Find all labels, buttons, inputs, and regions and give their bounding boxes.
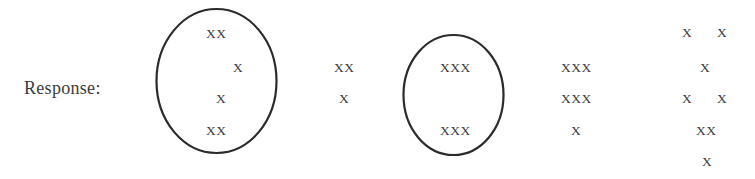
column-2-mark: XX (334, 61, 355, 75)
column-4-mark: XXX (561, 61, 592, 75)
column-3-mark: XXX (440, 124, 471, 138)
column-4-mark: XXX (561, 92, 592, 106)
column-5-mark: XX (696, 124, 717, 138)
ellipse-layer (0, 0, 755, 179)
column-4-mark: X (571, 124, 581, 138)
column-5-mark: X (682, 26, 692, 40)
column-5-mark: X (700, 61, 710, 75)
column-5-mark: X (702, 155, 712, 169)
column-1-mark: XX (206, 124, 227, 138)
column-1-mark: XX (206, 27, 227, 41)
column-5-mark: X (717, 92, 727, 106)
column-5-mark: X (717, 26, 727, 40)
column-1-mark: X (233, 61, 243, 75)
column-2-mark: X (339, 92, 349, 106)
column-5-mark: X (682, 92, 692, 106)
column-1-mark: X (216, 92, 226, 106)
response-diagram: Response: XXXXXXXXXXXXXXXXXXXXXXXXXXXXXX (0, 0, 755, 179)
column-3-mark: XXX (440, 61, 471, 75)
